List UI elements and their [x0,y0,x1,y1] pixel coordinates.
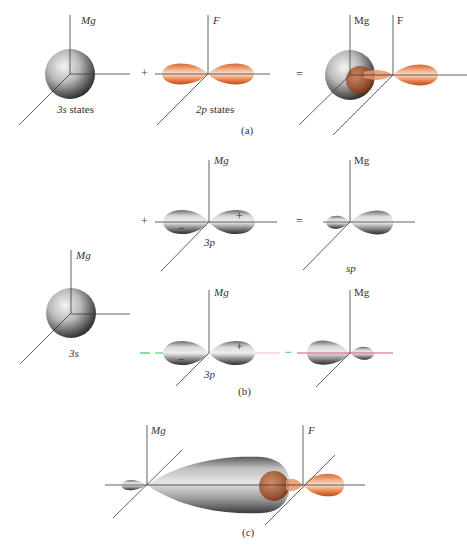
sp-hybrid-orbital-bottom [297,290,393,387]
state-label-sp: sp [346,263,356,274]
caption-a: (a) [241,125,253,136]
f-axis-label-c: F [308,425,315,436]
minus-sign-3p-bottom: − [178,353,185,365]
state-label-3p-top: 3p [204,237,215,248]
mg-axis-label-3p-top: Mg [214,155,229,166]
mg-f-combined-a [299,15,467,135]
mg-axis-label-a: Mg [81,15,96,26]
caption-c: (c) [242,527,254,538]
mg-axis-label-combined: Mg [354,15,369,26]
sp-hybrid-orbital-top [303,160,415,270]
mg-axis-label-sp-top: Mg [354,155,369,166]
equals-operator-b: = [296,215,303,227]
state-label-2p-states: 2p states [196,104,234,115]
orbital-hybridization-figure: Mg 3s states + F 2p states (a) = Mg F Mg… [0,0,467,550]
mg-axis-label-c: Mg [151,425,166,436]
f-2p-bonding-orbital [259,471,344,501]
mg-axis-label-3p-bottom: Mg [214,287,229,298]
caption-b: (b) [238,386,251,397]
figure-canvas [0,0,467,550]
plus-operator-b: + [141,215,148,227]
mg-axis-label-sp-bottom: Mg [354,287,369,298]
f-axis-label-a: F [213,15,220,26]
equals-operator-a: = [296,68,303,80]
plus-operator-a: + [141,67,148,79]
panel-c [105,425,365,525]
minus-operator-b: − [285,346,292,358]
minus-sign-3p-top: − [178,222,185,234]
mg-3p-orbital-top [155,160,277,271]
f-axis-label-combined: F [397,15,403,26]
state-label-3p-bottom: 3p [204,369,215,380]
panel-a [19,15,467,135]
state-label-3s-states: 3s states [57,104,94,115]
plus-sign-3p-top: + [236,210,243,222]
mg-axis-label-3s-b: Mg [76,250,91,261]
state-label-3s: 3s [69,348,79,359]
plus-sign-3p-bottom: + [236,341,243,353]
